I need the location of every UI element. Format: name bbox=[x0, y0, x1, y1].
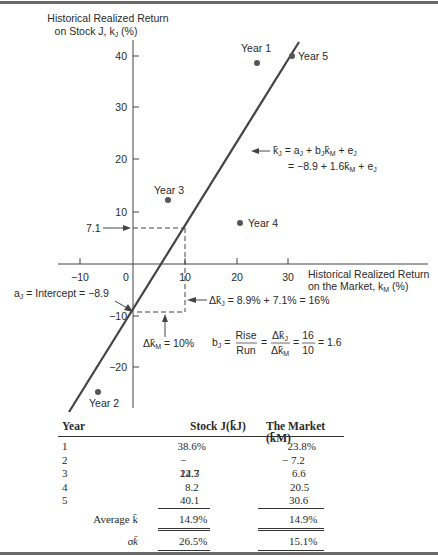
table-row: 3 12.3 6.6 bbox=[58, 467, 344, 481]
table-row: 4 8.2 20.5 bbox=[58, 481, 344, 495]
point-year2 bbox=[95, 389, 101, 395]
x-axis-title-line2: on the Market, kM (%) bbox=[308, 280, 408, 293]
y-tick-30: 30 bbox=[115, 101, 127, 113]
header-stock-j: Stock J(k̄J) bbox=[158, 420, 266, 436]
arrow-7-1-head-icon bbox=[123, 225, 131, 231]
y-tick-20: 20 bbox=[115, 153, 127, 165]
delta-km-label: Δk̄M = 10% bbox=[143, 337, 194, 350]
y-tick-neg10: −10 bbox=[109, 310, 127, 322]
label-year5: Year 5 bbox=[298, 50, 328, 62]
x-axis-title-line1: Historical Realized Return bbox=[308, 268, 430, 280]
label-year1: Year 1 bbox=[241, 42, 271, 54]
y-axis-title-line2: on Stock J, kJ (%) bbox=[55, 25, 138, 38]
x-tick-20: 20 bbox=[231, 271, 243, 283]
label-7-1: 7.1 bbox=[86, 222, 101, 234]
x-tick-30: 30 bbox=[282, 271, 294, 283]
svg-text:Δk̄M: Δk̄M bbox=[271, 344, 289, 357]
table-header: Year Stock J(k̄J) The Market (k̄M) bbox=[58, 420, 344, 437]
y-tick-neg20: −20 bbox=[109, 361, 127, 373]
returns-table: Year Stock J(k̄J) The Market (k̄M) 1 38.… bbox=[58, 420, 344, 550]
equation-line1: k̄J = aJ + bJk̄M + eJ bbox=[273, 144, 357, 157]
y-axis-title-line1: Historical Realized Return bbox=[47, 12, 169, 24]
x-tick-0: 0 bbox=[123, 271, 129, 283]
y-tick-40: 40 bbox=[115, 50, 127, 62]
y-tick-10: 10 bbox=[115, 206, 127, 218]
delta-km-arrowhead-icon bbox=[162, 314, 168, 322]
table-row: 5 40.1 30.6 bbox=[58, 494, 344, 508]
point-year5 bbox=[289, 53, 295, 59]
intercept-label: aJ = Intercept = −8.9 bbox=[14, 287, 109, 300]
regression-chart: Historical Realized Return on Stock J, k… bbox=[0, 0, 438, 415]
label-year3: Year 3 bbox=[154, 184, 184, 196]
delta-kj-arrowhead-icon bbox=[187, 297, 196, 303]
slope-formula: bJ = Rise Run = Δk̄J Δk̄M = 16 10 = 1.6 bbox=[212, 329, 342, 357]
point-year1 bbox=[254, 60, 260, 66]
average-row: Average k̄ 14.9% 14.9% bbox=[58, 511, 344, 528]
svg-text:= 1.6: = 1.6 bbox=[318, 336, 342, 348]
std-dev-row: σk̄ 26.5% 15.1% bbox=[58, 533, 344, 550]
header-year: Year bbox=[58, 420, 158, 436]
delta-kj-label: Δk̄J = 8.9% + 7.1% = 16% bbox=[209, 294, 330, 307]
svg-text:Run: Run bbox=[236, 344, 255, 356]
label-year2: Year 2 bbox=[89, 397, 119, 409]
svg-text:=: = bbox=[293, 336, 299, 348]
point-year4 bbox=[237, 220, 243, 226]
equation-line2: = −8.9 + 1.6k̄M + eJ bbox=[288, 160, 377, 173]
x-ticks: −10 0 10 20 30 bbox=[71, 258, 294, 283]
label-year4: Year 4 bbox=[248, 217, 278, 229]
svg-text:10: 10 bbox=[302, 344, 314, 356]
bottom-border-rule bbox=[0, 552, 438, 555]
svg-text:Δk̄J: Δk̄J bbox=[272, 329, 288, 342]
table-row: 1 38.6% 23.8% bbox=[58, 440, 344, 454]
x-tick-neg10: −10 bbox=[71, 271, 89, 283]
svg-text:Rise: Rise bbox=[235, 329, 256, 341]
svg-text:=: = bbox=[261, 336, 267, 348]
svg-text:bJ =: bJ = bbox=[212, 336, 230, 349]
header-market: The Market (k̄M) bbox=[266, 420, 344, 436]
table-row: 2 − 24.7 − 7.2 bbox=[58, 454, 344, 468]
svg-text:16: 16 bbox=[302, 329, 314, 341]
point-year3 bbox=[165, 197, 171, 203]
dashed-guides bbox=[133, 228, 185, 312]
equation-arrowhead-icon bbox=[251, 148, 259, 154]
